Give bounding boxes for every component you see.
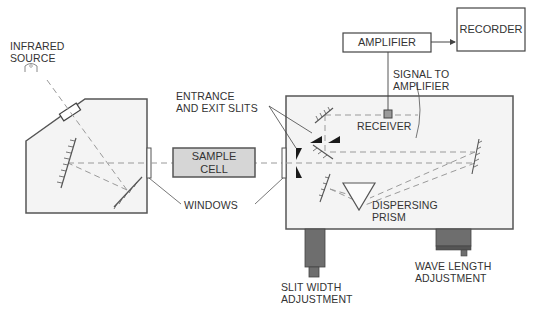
signal-label-line2: AMPLIFIER	[393, 80, 449, 92]
amplifier-label: AMPLIFIER	[343, 33, 431, 52]
wave-length-knob-icon	[436, 229, 471, 256]
recorder-label: RECORDER	[457, 8, 525, 51]
signal-to-amplifier-label: SIGNAL TO AMPLIFIER	[393, 68, 449, 92]
sample-cell-label-line2: CELL	[200, 163, 228, 176]
infrared-source-label-line2: SOURCE	[10, 52, 64, 64]
slit-width-adjustment-label: SLIT WIDTH ADJUSTMENT	[281, 281, 353, 305]
entrance-exit-slits-label: ENTRANCE AND EXIT SLITS	[176, 90, 258, 114]
wave-length-label-line2: ADJUSTMENT	[415, 272, 491, 284]
infrared-source-lamp-icon	[25, 64, 37, 73]
slit-width-label-line1: SLIT WIDTH	[281, 281, 353, 293]
source-housing	[26, 99, 151, 213]
receiver-label: RECEIVER	[357, 120, 411, 132]
wave-length-adjustment-label: WAVE LENGTH ADJUSTMENT	[415, 260, 491, 284]
receiver-icon	[384, 110, 392, 118]
windows-label: WINDOWS	[184, 199, 238, 211]
slits-label-line1: ENTRANCE	[176, 90, 258, 102]
infrared-source-label-line1: INFRARED	[10, 40, 64, 52]
sample-cell-label-line1: SAMPLE	[192, 150, 237, 163]
sample-cell-label: SAMPLE CELL	[173, 148, 255, 177]
slit-width-label-line2: ADJUSTMENT	[281, 293, 353, 305]
slit-width-knob-icon	[305, 229, 325, 277]
slits-label-line2: AND EXIT SLITS	[176, 102, 258, 114]
prism-label-line2: PRISM	[372, 211, 438, 223]
infrared-source-label: INFRARED SOURCE	[10, 40, 64, 64]
prism-label-line1: DISPERSING	[372, 199, 438, 211]
signal-label-line1: SIGNAL TO	[393, 68, 449, 80]
dispersing-prism-label: DISPERSING PRISM	[372, 199, 438, 223]
wave-length-label-line1: WAVE LENGTH	[415, 260, 491, 272]
